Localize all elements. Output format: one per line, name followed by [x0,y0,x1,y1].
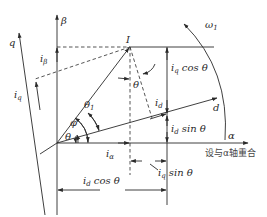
ialpha-label: iα [106,148,114,161]
top-theta-arrow-right [143,64,155,74]
top-theta-arrow-left [118,78,129,79]
theta-label: θ [65,131,71,142]
q-axis: q [9,33,57,215]
omega-label: ω1 [205,19,218,32]
iq-label: iq [14,89,22,102]
id-sin-theta-label: id sin θ [171,123,206,136]
phi-label: φ [70,117,77,128]
top-theta-label: θ [133,79,139,90]
iq-projection-line [35,47,130,79]
current-vector-I: I [57,34,131,143]
beta-axis-label: β [60,15,67,26]
iqsin-leader [150,164,158,170]
caption: 设与α轴重合 [205,147,256,158]
d-axis-label: d [213,102,219,113]
theta1-arc [88,113,99,131]
ibeta-label: iβ [40,53,47,66]
id-label: id [155,97,163,110]
theta1-label: θ1 [84,99,95,112]
rotation-arc: ω1 [184,19,225,140]
vector-diagram: β α q iq iβ I d id iq cos θ [0,0,267,217]
alpha-axis-label: α [228,130,235,141]
q-axis-label: q [9,37,15,48]
iq-sin-theta-label: iq sin θ [158,167,193,180]
current-label: I [125,34,131,45]
theta-arc [77,135,78,143]
iq-vector [36,82,40,110]
iq-cos-theta-label: iq cos θ [171,62,208,75]
d-axis: d [57,98,219,143]
id-cos-theta-label: id cos θ [83,175,120,188]
beta-axis: β [57,15,67,215]
